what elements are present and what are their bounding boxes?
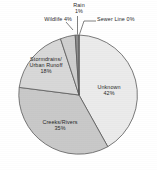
leader-line-sewer (79, 21, 96, 35)
pie-chart-figure: Unknown 42% Creeks/Rivers 35% Stormdrain… (0, 0, 157, 170)
pie-label-unknown-percent: 42% (88, 90, 130, 96)
pie-chart-graphic (0, 0, 157, 170)
pie-label-creeks-rivers: Creeks/Rivers 35% (32, 119, 88, 131)
pie-label-unknown: Unknown 42% (88, 84, 130, 96)
leader-line-wildlife (66, 22, 73, 30)
pie-label-stormdrains-urban-runoff: Stormdrains/ Urban Runoff 18% (18, 56, 74, 75)
pie-label-wildlife: Wildlife 4% (26, 16, 72, 22)
pie-label-creeks-rivers-percent: 35% (32, 125, 88, 131)
pie-label-stormdrains-percent: 18% (18, 68, 74, 74)
pie-label-rain-percent: 1% (62, 8, 96, 14)
pie-label-sewer-line: Sewer Line 0% (97, 16, 155, 22)
pie-label-rain: Rain 1% (62, 2, 96, 14)
